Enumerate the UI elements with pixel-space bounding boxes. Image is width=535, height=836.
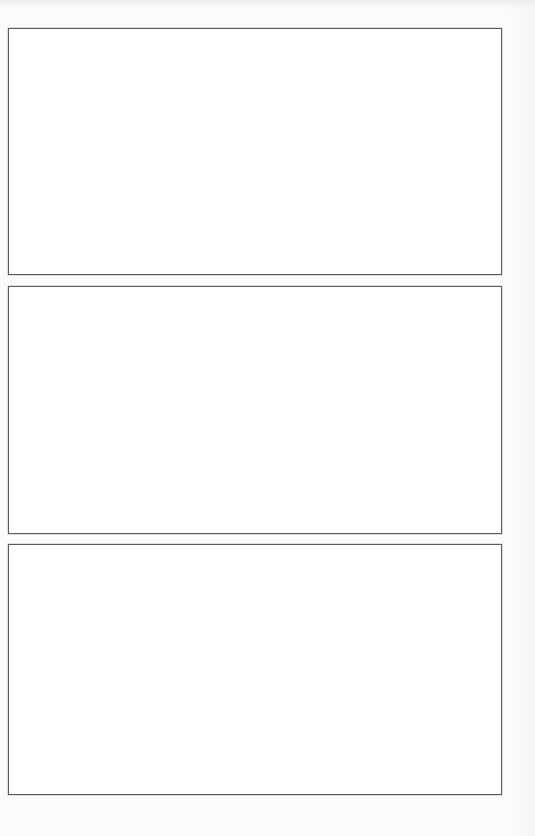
scanned-page <box>0 0 535 836</box>
blank-frame-3 <box>8 544 502 795</box>
blank-frame-1 <box>8 28 502 275</box>
blank-frame-2 <box>8 286 502 534</box>
scan-edge-shadow <box>0 0 535 6</box>
